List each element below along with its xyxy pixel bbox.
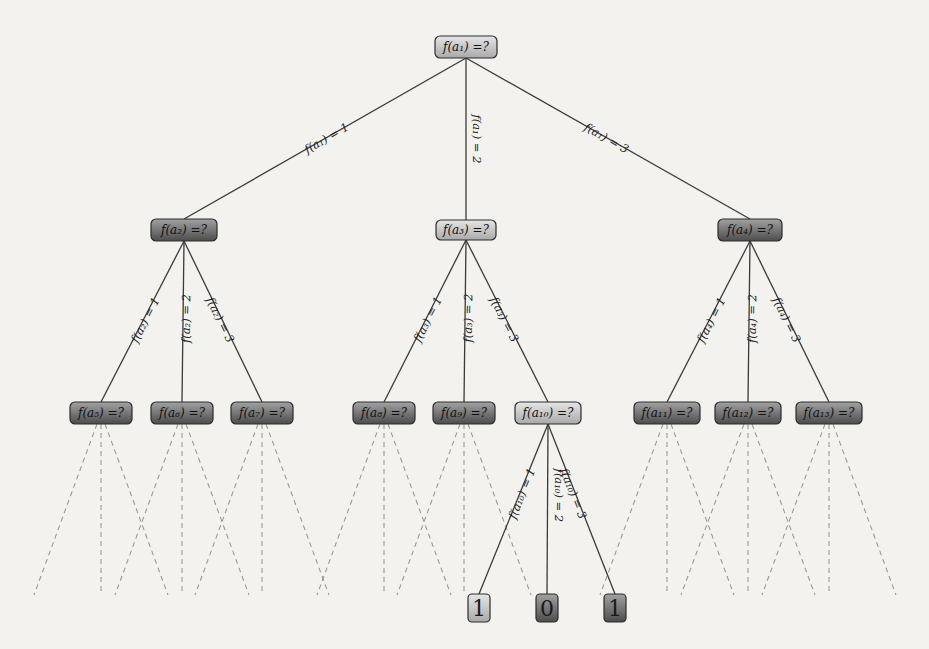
node-a7: f(a₇) =? [231, 402, 293, 424]
node-a4: f(a₄) =? [718, 219, 782, 241]
edge-label: f(a₂) = 3 [203, 294, 237, 345]
node-label: f(a₉) =? [440, 406, 488, 420]
edge-label: f(a₄) = 3 [769, 294, 804, 345]
node-label: f(a₃) =? [442, 223, 490, 237]
node-label: f(a₆) =? [158, 406, 206, 420]
leaf-leaf3: 1 [604, 594, 626, 622]
truncated-branch-line [762, 424, 825, 595]
node-a11: f(a₁₁) =? [634, 402, 700, 424]
node-a10: f(a₁₀) =? [515, 402, 581, 424]
node-a9: f(a₉) =? [433, 402, 495, 424]
leaf-value: 1 [472, 596, 486, 621]
truncated-branch-line [671, 424, 734, 595]
node-a5: f(a₅) =? [70, 402, 132, 424]
edge-label: f(a₂) = 1 [127, 295, 162, 346]
truncated-branch-line [317, 424, 380, 595]
decision-tree-diagram: f(a₁) = 1f(a₁) = 2f(a₁) = 3f(a₂) = 1f(a₂… [0, 0, 929, 649]
edge-label: f(a₃) = 2 [461, 293, 476, 343]
truncated-branch-line [34, 424, 97, 595]
edge-label: f(a₄) = 2 [745, 294, 760, 344]
tree-edges: f(a₁) = 1f(a₁) = 2f(a₁) = 3f(a₂) = 1f(a₂… [101, 58, 829, 594]
truncated-branch-line [397, 424, 460, 595]
node-a3: f(a₃) =? [436, 220, 496, 240]
truncated-branch-line [600, 424, 663, 595]
node-label: f(a₄) =? [726, 223, 774, 237]
truncated-branch-line [105, 424, 168, 595]
truncated-branch-line [752, 424, 815, 595]
node-a13: f(a₁₃) =? [796, 402, 862, 424]
edge-label: f(a₃) = 3 [487, 293, 522, 344]
node-a6: f(a₆) =? [151, 402, 213, 424]
truncated-branch-line [388, 424, 451, 595]
node-label: f(a₂) =? [160, 223, 208, 237]
truncated-branches [34, 424, 896, 595]
edge-label: f(a₁) = 1 [301, 120, 351, 157]
leaf-leaf2: 0 [536, 594, 558, 622]
truncated-branch-line [266, 424, 329, 595]
node-label: f(a₁₃) =? [803, 406, 855, 420]
leaf-leaf1: 1 [468, 594, 490, 622]
node-label: f(a₁₁) =? [641, 406, 693, 420]
edge-label: f(a₁) = 2 [470, 114, 484, 164]
edge-a10-leaf2 [547, 424, 548, 594]
edge-label: f(a₃) = 1 [410, 294, 445, 345]
edge-label: f(a₁) = 3 [581, 119, 631, 156]
node-label: f(a₁₀) =? [522, 406, 574, 420]
truncated-branch-line [186, 424, 249, 595]
node-a8: f(a₈) =? [353, 402, 415, 424]
node-label: f(a₇) =? [238, 406, 286, 420]
edge-label: f(a₁₀) = 1 [505, 466, 538, 522]
tree-leaves: 101 [468, 594, 626, 622]
truncated-branch-line [115, 424, 178, 595]
node-a12: f(a₁₂) =? [715, 402, 781, 424]
node-a1: f(a₁) =? [435, 36, 497, 58]
node-label: f(a₁) =? [442, 40, 490, 54]
truncated-branch-line [681, 424, 744, 595]
truncated-branch-line [195, 424, 258, 595]
truncated-branch-line [833, 424, 896, 595]
node-a2: f(a₂) =? [151, 219, 217, 241]
tree-canvas: f(a₁) = 1f(a₁) = 2f(a₁) = 3f(a₂) = 1f(a₂… [0, 0, 929, 649]
leaf-value: 0 [540, 596, 554, 621]
node-label: f(a₈) =? [360, 406, 408, 420]
edge-label: f(a₂) = 2 [179, 294, 194, 344]
leaf-value: 1 [608, 596, 622, 621]
edge-label: f(a₄) = 1 [693, 295, 728, 346]
node-label: f(a₅) =? [77, 406, 125, 420]
node-label: f(a₁₂) =? [722, 406, 774, 420]
